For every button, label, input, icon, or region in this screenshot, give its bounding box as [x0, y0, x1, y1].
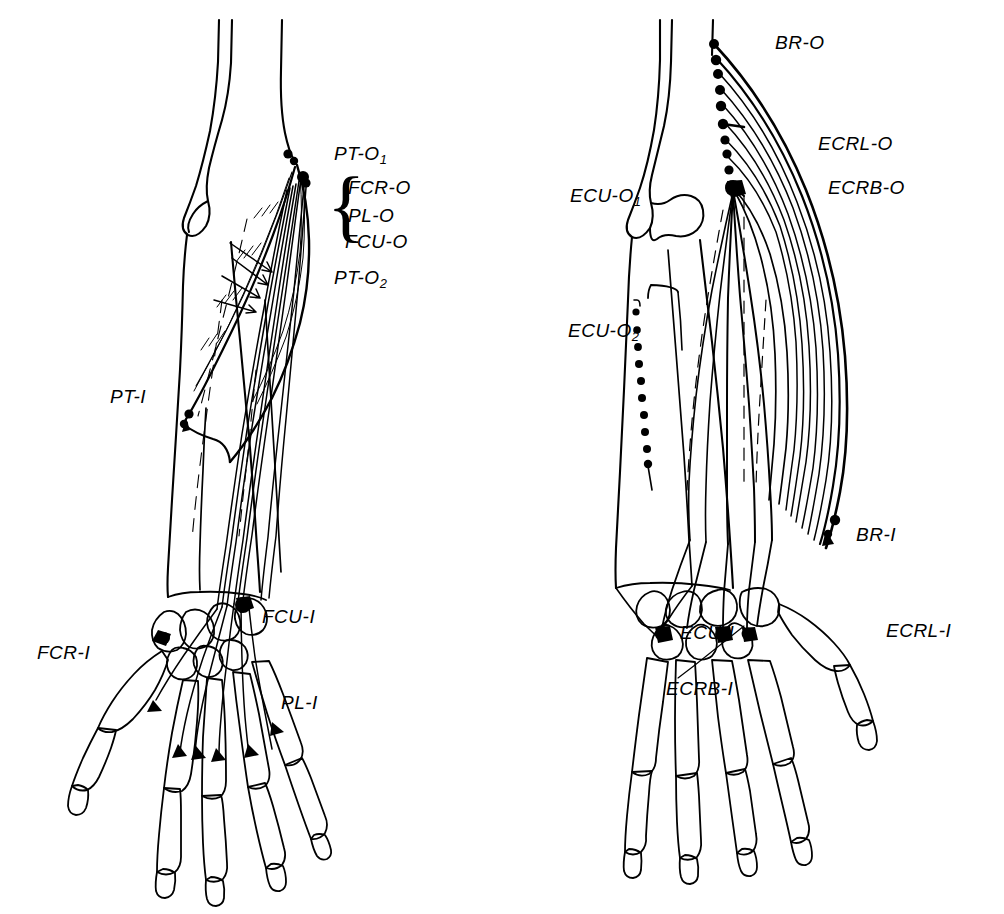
label-br-o: BR-O: [775, 32, 825, 54]
label-fcu-i: FCU-I: [262, 606, 315, 628]
label-pt-o2: PT-O2: [334, 267, 387, 291]
label-ecu-o1: ECU-O1: [570, 185, 641, 209]
label-fcr-i: FCR-I: [37, 642, 90, 664]
label-br-i: BR-I: [856, 524, 896, 546]
label-ecu-i: ECU-I: [680, 622, 734, 644]
left-forearm-group: [68, 20, 331, 906]
label-ecrb-i: ECRB-I: [666, 678, 733, 700]
figure-canvas: PT-O1 { FCR-O PL-O FCU-O PT-O2 PT-I FCU-…: [0, 0, 1004, 914]
label-ecrl-i: ECRL-I: [886, 620, 951, 642]
label-ecrb-o: ECRB-O: [828, 177, 905, 199]
label-fcu-o: FCU-O: [345, 231, 408, 253]
label-pl-o: PL-O: [348, 205, 394, 227]
label-pl-i: PL-I: [281, 692, 318, 714]
label-ecu-o2: ECU-O2: [568, 320, 639, 344]
label-pt-i: PT-I: [110, 386, 146, 408]
label-ecrl-o: ECRL-O: [818, 133, 893, 155]
label-fcr-o: FCR-O: [348, 177, 411, 199]
